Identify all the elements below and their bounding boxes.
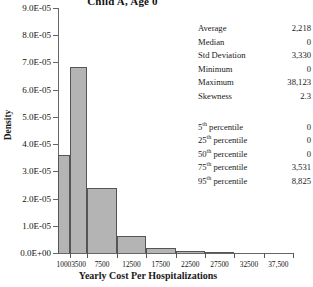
stat-label: Skewness: [198, 90, 232, 104]
stat-row: Median0: [198, 36, 311, 50]
x-tick: [87, 253, 88, 258]
statistics-spacer: [198, 104, 311, 121]
x-tick-label: 12500: [122, 260, 140, 269]
x-tick: [264, 253, 265, 258]
stat-label: 50th percentile: [198, 148, 247, 162]
y-tick-label: 5.0E-05: [22, 112, 51, 122]
x-tick: [234, 253, 235, 258]
x-tick: [117, 253, 118, 258]
x-tick: [293, 253, 294, 258]
y-axis-label: Density: [3, 95, 13, 155]
stat-value: 3,531: [292, 161, 311, 175]
stat-value: 3,330: [292, 49, 311, 63]
stat-value: 8,825: [292, 175, 311, 189]
x-tick: [146, 253, 147, 258]
statistics-percentile-list: 5th percentile025th percentile050th perc…: [198, 121, 311, 189]
y-tick: [53, 90, 58, 91]
stat-label: Median: [198, 36, 224, 50]
stat-value: 0: [307, 134, 311, 148]
stat-value: 0: [307, 36, 311, 50]
chart-figure: Child A, Age 0 Density 0.0E+001.0E-052.0…: [0, 0, 313, 287]
histogram-bar: [176, 251, 205, 253]
histogram-bar: [87, 188, 116, 253]
stat-row: Maximum38,123: [198, 76, 311, 90]
stat-value: 38,123: [287, 76, 311, 90]
y-tick-label: 9.0E-05: [22, 3, 51, 13]
stat-label: Average: [198, 22, 226, 36]
percentile-row: 50th percentile0: [198, 148, 311, 162]
x-axis-label: Yearly Cost Per Hospitalizations: [28, 270, 268, 281]
stat-value: 0: [307, 121, 311, 135]
histogram-bar: [58, 155, 70, 253]
y-tick-label: 0.0E+00: [20, 248, 51, 258]
y-tick-label: 2.0E-05: [22, 194, 51, 204]
stat-row: Minimum0: [198, 63, 311, 77]
y-tick: [53, 253, 58, 254]
stat-label: Maximum: [198, 76, 234, 90]
y-tick-label: 3.0E-05: [22, 166, 51, 176]
stat-value: 0: [307, 63, 311, 77]
y-tick-label: 1.0E-05: [22, 221, 51, 231]
stat-label: 75th percentile: [198, 161, 247, 175]
stat-row: Std Deviation3,330: [198, 49, 311, 63]
stat-value: 2.3: [300, 90, 311, 104]
statistics-summary-list: Average2,218Median0Std Deviation3,330Min…: [198, 22, 311, 104]
histogram-bar: [205, 252, 234, 253]
percentile-row: 5th percentile0: [198, 121, 311, 135]
x-tick-label: 17500: [152, 260, 170, 269]
y-tick: [53, 8, 58, 9]
y-tick: [53, 62, 58, 63]
stat-row: Average2,218: [198, 22, 311, 36]
x-tick: [70, 253, 71, 258]
x-tick: [176, 253, 177, 258]
histogram-bar: [117, 236, 146, 253]
y-tick-label: 4.0E-05: [22, 139, 51, 149]
x-tick-label: 7500: [95, 260, 110, 269]
y-tick: [53, 117, 58, 118]
stat-row: Skewness2.3: [198, 90, 311, 104]
stat-label: 25th percentile: [198, 134, 247, 148]
x-tick-label: 37,500: [268, 260, 288, 269]
y-tick: [53, 144, 58, 145]
stat-label: 95th percentile: [198, 175, 247, 189]
histogram-bar: [70, 67, 88, 253]
stat-label: Minimum: [198, 63, 232, 77]
y-tick: [53, 35, 58, 36]
x-tick-label: 3500: [71, 260, 86, 269]
x-tick-label: 22500: [181, 260, 199, 269]
x-tick-label: 1000: [56, 260, 71, 269]
statistics-panel: Average2,218Median0Std Deviation3,330Min…: [198, 22, 311, 189]
percentile-row: 25th percentile0: [198, 134, 311, 148]
y-tick-label: 6.0E-05: [22, 85, 51, 95]
percentile-row: 75th percentile3,531: [198, 161, 311, 175]
percentile-row: 95th percentile8,825: [198, 175, 311, 189]
stat-value: 2,218: [292, 22, 311, 36]
x-tick-label: 32500: [240, 260, 258, 269]
stat-value: 0: [307, 148, 311, 162]
stat-label: Std Deviation: [198, 49, 246, 63]
y-tick-label: 8.0E-05: [22, 30, 51, 40]
stat-label: 5th percentile: [198, 121, 243, 135]
histogram-bar: [146, 248, 175, 253]
y-tick-label: 7.0E-05: [22, 57, 51, 67]
x-tick-label: 27500: [210, 260, 228, 269]
x-tick: [205, 253, 206, 258]
